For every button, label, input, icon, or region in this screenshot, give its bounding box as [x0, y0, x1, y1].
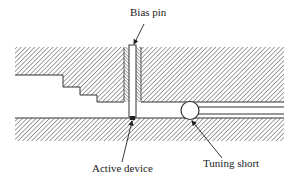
tuning-short-label: Tuning short [203, 157, 259, 169]
upper-right-block [141, 47, 284, 102]
bias-pin-bushing-left [124, 47, 129, 102]
lower-block [15, 118, 284, 141]
bias-pin-bushing-right [136, 47, 141, 102]
bias-pin [129, 45, 136, 117]
active-device [130, 116, 135, 120]
bias-pin-label: Bias pin [130, 6, 166, 18]
bias-pin-leader [134, 24, 144, 44]
waveguide-diagram [0, 0, 298, 182]
tuning-short [181, 102, 284, 120]
active-device-label: Active device [92, 162, 153, 174]
